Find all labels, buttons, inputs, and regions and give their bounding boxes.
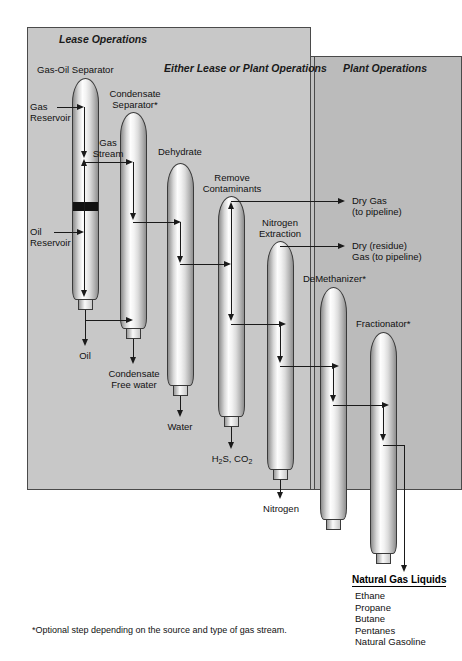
nitrogen-outlet-arrowhead	[277, 492, 283, 499]
dehydrate-down-arrowhead	[177, 256, 183, 263]
demethanizer-down-line	[333, 366, 334, 397]
label-gas-reservoir-line1: Gas	[30, 101, 47, 112]
label-remove-contaminants-line2: Contaminants	[196, 183, 268, 194]
nitrogen-extraction-outlet-nozzle	[273, 469, 288, 480]
remove-to-nitrogen-line	[231, 324, 280, 325]
panel-title-plant-operations: Plant Operations	[343, 62, 427, 74]
acid-gas-outlet-arrowhead	[228, 442, 234, 449]
vessel-dehydrate[interactable]	[167, 163, 194, 386]
label-demethanizer: DeMethanizer*	[303, 273, 366, 284]
vessel-body	[320, 287, 347, 520]
diagram-canvas: Lease Operations Either Lease or Plant O…	[0, 0, 462, 661]
label-gas-stream-line1: Gas	[90, 137, 126, 148]
gas-oil-separator-down-arrowhead	[81, 151, 87, 158]
label-nitrogen-extraction-line1: Nitrogen	[248, 217, 312, 228]
label-condensate-output-line2: Free water	[104, 379, 164, 390]
residue-gas-line	[280, 246, 339, 247]
fractionator-to-ngl-line	[383, 445, 405, 446]
condensate-outlet-arrowhead	[130, 357, 136, 364]
dehydrate-outlet-nozzle	[173, 385, 188, 396]
remove-contaminants-down-arrowhead	[228, 314, 234, 321]
condensate-separator-down-line	[133, 162, 134, 215]
label-oil-output: Oil	[66, 350, 104, 361]
ngl-item-pentanes: Pentanes	[355, 625, 426, 637]
nitrogen-to-demethanizer-line	[280, 366, 333, 367]
remove-contaminants-up-arrowhead	[228, 202, 234, 209]
gas-oil-separator-level-band	[73, 202, 98, 211]
dehydrate-to-remove-arrowhead	[224, 261, 231, 267]
condensate-to-dehydrate-line	[133, 222, 175, 223]
vessel-demethanizer[interactable]	[320, 287, 347, 520]
label-nitrogen-output: Nitrogen	[256, 503, 306, 514]
oil-outlet-arrowhead	[82, 339, 88, 346]
label-residue-gas-line2: Gas (to pipeline)	[352, 251, 422, 262]
oil-outlet-line	[85, 310, 86, 341]
demethanizer-down-arrowhead	[330, 395, 336, 402]
oil-reservoir-inlet-arrowhead	[77, 229, 84, 235]
gas-oil-separator-bottom-arrowhead	[81, 290, 87, 297]
ngl-outlet-arrowhead	[401, 565, 407, 572]
fractionator-down-arrowhead	[380, 434, 386, 441]
gas-oil-separator-outlet-nozzle	[78, 299, 93, 310]
label-gas-oil-separator: Gas-Oil Separator	[37, 64, 114, 75]
label-oil-reservoir-line1: Oil	[30, 226, 42, 237]
water-outlet-arrowhead	[177, 410, 183, 417]
oil-to-condensate-arrowhead	[126, 317, 133, 323]
acid-gas-co2-sub: 2	[248, 458, 252, 465]
demethanizer-to-fractionator-line	[333, 405, 383, 406]
condensate-separator-outlet-nozzle	[126, 328, 141, 339]
residue-gas-arrowhead	[338, 243, 345, 249]
ngl-item-ethane: Ethane	[355, 590, 426, 602]
vessel-gas-oil-separator[interactable]	[72, 78, 99, 300]
ngl-item-propane: Propane	[355, 602, 426, 614]
dry-gas-arrowhead	[338, 198, 345, 204]
panel-title-lease-operations: Lease Operations	[59, 33, 147, 45]
label-dry-gas-line1: Dry Gas	[352, 195, 387, 206]
ngl-outlet-line	[404, 445, 405, 567]
acid-gas-s: S, CO	[223, 453, 249, 464]
footnote: *Optional step depending on the source a…	[32, 625, 287, 635]
label-nitrogen-extraction-line2: Extraction	[248, 228, 312, 239]
gas-stream-line	[84, 162, 127, 163]
gas-oil-separator-up-line	[84, 165, 85, 232]
condensate-outlet-line	[133, 339, 134, 359]
ngl-item-natural-gasoline: Natural Gasoline	[355, 636, 426, 648]
label-condensate-output-line1: Condensate	[104, 368, 164, 379]
gas-reservoir-inlet-arrowhead	[77, 104, 84, 110]
label-residue-gas-line1: Dry (residue)	[352, 240, 407, 251]
label-gas-reservoir-line2: Reservoir	[30, 112, 71, 123]
label-condensate-separator-line1: Condensate	[105, 88, 165, 99]
label-oil-reservoir-line2: Reservoir	[30, 237, 71, 248]
label-acid-gas-output: H2S, CO2	[203, 453, 261, 465]
ngl-item-butane: Butane	[355, 613, 426, 625]
vessel-body	[167, 163, 194, 386]
fractionator-outlet-nozzle	[376, 553, 391, 564]
oil-reservoir-inlet-line	[54, 232, 78, 233]
remove-contaminants-up-line	[231, 208, 232, 266]
label-gas-stream-line2: Stream	[90, 148, 126, 159]
dry-gas-line	[231, 201, 339, 202]
demethanizer-outlet-nozzle	[326, 519, 341, 530]
acid-gas-h: H	[212, 453, 219, 464]
label-fractionator: Fractionator*	[356, 318, 410, 329]
oil-to-condensate-line	[85, 320, 127, 321]
dehydrate-to-remove-line	[180, 264, 225, 265]
nitrogen-extraction-down-line	[280, 324, 281, 358]
remove-contaminants-down-line	[231, 264, 232, 316]
nitrogen-extraction-down-arrowhead	[277, 356, 283, 363]
fractionator-down-line	[383, 405, 384, 436]
ngl-title: Natural Gas Liquids	[352, 574, 446, 587]
dehydrate-down-line	[180, 222, 181, 258]
vessel-fractionator[interactable]	[370, 332, 397, 554]
vessel-body	[72, 78, 99, 300]
gas-stream-arrowhead	[126, 159, 133, 165]
vessel-body	[370, 332, 397, 554]
condensate-separator-down-arrowhead	[130, 213, 136, 220]
gas-oil-separator-bottom-line	[84, 232, 85, 292]
gas-oil-separator-down-line	[84, 107, 85, 153]
panel-title-either-lease-or-plant: Either Lease or Plant Operations	[164, 62, 327, 74]
gas-reservoir-inlet-line	[57, 107, 78, 108]
label-dry-gas-line2: (to pipeline)	[352, 206, 402, 217]
label-dehydrate: Dehydrate	[158, 146, 202, 157]
remove-contaminants-outlet-nozzle	[224, 416, 239, 427]
